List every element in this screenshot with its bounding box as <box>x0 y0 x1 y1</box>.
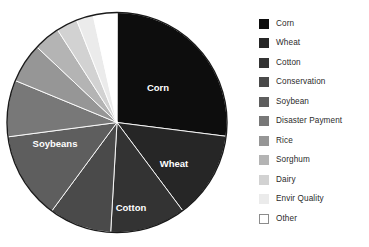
legend-swatch-icon <box>259 175 269 185</box>
pie-slice-corn[interactable] <box>117 13 227 137</box>
legend-item-label: Conservation <box>276 78 325 86</box>
legend-item-label: Cotton <box>276 59 301 67</box>
legend-item-rice[interactable]: Rice <box>259 131 367 151</box>
legend-swatch-icon <box>259 194 269 204</box>
legend-item-label: Soybean <box>276 98 309 106</box>
legend-item-label: Disaster Payment <box>276 117 342 125</box>
legend-swatch-icon <box>259 77 269 87</box>
legend-item-envir-quality[interactable]: Envir Quality <box>259 190 367 210</box>
legend-item-other[interactable]: Other <box>259 209 367 229</box>
pie-slice-label-wheat: Wheat <box>160 158 189 169</box>
legend-item-dairy[interactable]: Dairy <box>259 170 367 190</box>
pie-slice-label-cotton: Cotton <box>116 202 147 213</box>
pie-slice-label-soybeans: Soybeans <box>33 138 78 149</box>
legend-swatch-icon <box>259 58 269 68</box>
chart-legend: CornWheatCottonConservationSoybeanDisast… <box>259 14 367 229</box>
legend-item-sorghum[interactable]: Sorghum <box>259 151 367 171</box>
legend-item-wheat[interactable]: Wheat <box>259 34 367 54</box>
legend-swatch-icon <box>259 116 269 126</box>
legend-item-label: Wheat <box>276 39 300 47</box>
legend-swatch-icon <box>259 155 269 165</box>
legend-item-label: Sorghum <box>276 156 310 164</box>
legend-swatch-icon <box>259 214 269 224</box>
legend-item-label: Other <box>276 215 297 223</box>
legend-item-label: Rice <box>276 137 293 145</box>
legend-item-corn[interactable]: Corn <box>259 14 367 34</box>
pie-slice-group <box>7 12 227 232</box>
legend-item-cotton[interactable]: Cotton <box>259 53 367 73</box>
legend-item-label: Envir Quality <box>276 195 324 203</box>
legend-swatch-icon <box>259 97 269 107</box>
legend-swatch-icon <box>259 38 269 48</box>
legend-swatch-icon <box>259 19 269 29</box>
legend-item-soybean[interactable]: Soybean <box>259 92 367 112</box>
legend-item-label: Dairy <box>276 176 296 184</box>
pie-slice-label-corn: Corn <box>147 82 169 93</box>
pie-chart-figure: CornWheatCottonSoybeans CornWheatCottonC… <box>0 0 369 247</box>
legend-swatch-icon <box>259 136 269 146</box>
legend-item-disaster-payment[interactable]: Disaster Payment <box>259 112 367 132</box>
legend-item-conservation[interactable]: Conservation <box>259 73 367 93</box>
pie-svg: CornWheatCottonSoybeans <box>0 0 240 247</box>
pie-plot-area: CornWheatCottonSoybeans <box>0 0 240 247</box>
legend-item-label: Corn <box>276 20 294 28</box>
